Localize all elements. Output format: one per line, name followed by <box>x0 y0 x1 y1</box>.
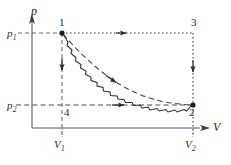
curve-irreversible-zigzag <box>63 34 192 112</box>
axis-horizontal-V <box>32 125 210 131</box>
arrow-isotherm-midpoint <box>106 76 116 83</box>
tick-label-V2-subscript: 2 <box>192 144 196 153</box>
pv-diagram-figure: p V p1 p2 V1 V2 1 3 4 2 <box>0 0 231 165</box>
axis-label-V: V <box>213 121 220 133</box>
state-label-2: 2 <box>189 107 195 118</box>
state-label-4: 4 <box>64 107 70 118</box>
tick-label-V2-base: V <box>185 138 192 150</box>
axis-vertical-p <box>29 14 35 128</box>
axis-label-p: p <box>31 5 37 17</box>
tick-label-V1: V1 <box>54 139 64 150</box>
V-axis-arrowhead <box>200 125 210 131</box>
tick-label-p2: p2 <box>7 100 16 111</box>
tick-label-p1: p1 <box>7 28 16 39</box>
tick-label-V1-base: V <box>54 138 61 150</box>
tick-label-p1-base: p <box>7 27 13 39</box>
tick-label-p2-subscript: 2 <box>13 105 17 114</box>
tick-label-V2: V2 <box>185 139 195 150</box>
state-point-1-marker <box>59 30 64 35</box>
tick-label-V1-subscript: 1 <box>61 144 65 153</box>
state-label-1: 1 <box>59 17 65 28</box>
tick-label-p2-base: p <box>7 99 13 111</box>
tick-label-p1-subscript: 1 <box>13 33 17 42</box>
state-label-3: 3 <box>191 17 197 28</box>
